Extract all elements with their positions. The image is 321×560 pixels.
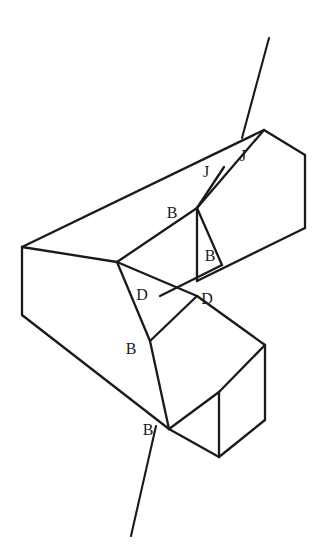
edge-lower-front-bottom: [169, 429, 219, 457]
label-b-upper: B: [167, 204, 178, 221]
label-b-lower: B: [143, 421, 154, 438]
label-b-mid: B: [126, 340, 137, 357]
leader-lines-group: [131, 38, 269, 536]
label-j-right: J: [240, 147, 246, 164]
edge-lower-top-face-a: [150, 296, 197, 341]
edge-top-face-right-edge: [264, 130, 305, 155]
upper-bar-group: [22, 130, 305, 281]
joint-diagram: J J B B D D B B: [0, 0, 321, 560]
edge-lower-top-face-c: [219, 345, 265, 392]
label-d-right: D: [201, 290, 213, 307]
edge-lower-top-face-d: [169, 392, 219, 429]
label-j-left: J: [203, 163, 209, 180]
label-b-right: B: [205, 247, 216, 264]
edge-lower-right-bottom: [219, 420, 265, 457]
leader-line-bottom: [131, 426, 156, 536]
edge-top-face-left-ridge: [22, 130, 264, 247]
leader-line-top: [242, 38, 269, 138]
edge-notch-top-left: [117, 208, 197, 262]
joint-drawing-canvas: J J B B D D B B: [0, 0, 321, 560]
edge-left-end-top: [22, 247, 117, 262]
edge-cut-j-to-b: [197, 167, 224, 208]
label-d-left: D: [136, 286, 148, 303]
lower-block-group: [150, 296, 265, 457]
